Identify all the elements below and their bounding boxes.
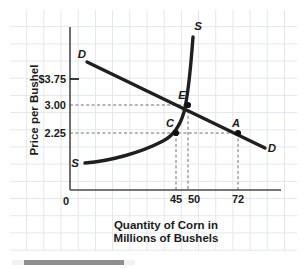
point-label-c: C	[166, 117, 175, 129]
x-axis-title-line2: Millions of Bushels	[114, 232, 219, 244]
chart-page: D D S S C E A $3.75 3.00 2.25 45 50 72 0…	[0, 0, 303, 268]
y-axis-title: Price per Bushel	[28, 65, 40, 156]
demand-label-upper-left: D	[78, 48, 86, 60]
point-label-e: E	[178, 89, 186, 101]
origin-label: 0	[63, 195, 69, 207]
demand-label-lower-right: D	[268, 142, 276, 154]
supply-curve	[85, 37, 193, 163]
supply-label-lower: S	[71, 157, 79, 169]
point-marker-a	[235, 130, 241, 136]
y-tick-label-375: $3.75	[38, 73, 66, 85]
x-tick-label-45: 45	[170, 193, 182, 205]
supply-demand-chart: D D S S C E A $3.75 3.00 2.25 45 50 72 0…	[0, 0, 303, 268]
x-tick-label-72: 72	[232, 193, 244, 205]
point-marker-e	[185, 102, 191, 108]
supply-label-upper: S	[194, 20, 202, 32]
point-label-a: A	[231, 117, 240, 129]
point-marker-c	[173, 130, 179, 136]
y-tick-label-300: 3.00	[45, 99, 66, 111]
x-axis-title-line1: Quantity of Corn in	[114, 219, 218, 231]
y-tick-label-225: 2.25	[45, 127, 66, 139]
scrollbar-thumb[interactable]	[24, 260, 124, 265]
x-tick-label-50: 50	[188, 193, 200, 205]
guide-lines	[70, 105, 238, 190]
